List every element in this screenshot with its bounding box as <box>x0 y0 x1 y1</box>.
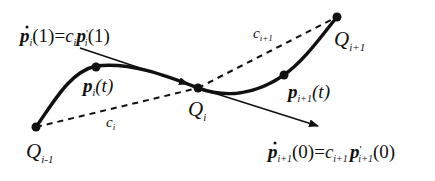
label-p-next: pi+1(t) <box>286 81 330 104</box>
label-c-i: ci <box>106 114 116 132</box>
curve-p-i <box>36 65 198 127</box>
label-q-prev: Qi-1 <box>26 139 53 165</box>
svg-text:pi(1)=cip'i(1): pi(1)=cip'i(1) <box>18 25 110 48</box>
point-q-next <box>333 13 342 22</box>
label-q-next: Qi+1 <box>334 27 365 53</box>
bezier-continuity-diagram: Qi-1 pi(t) Qi pi+1(t) Qi+1 ci ci+1 pi(1)… <box>0 0 435 181</box>
point-q-prev <box>32 123 41 132</box>
point-p-i <box>92 63 101 72</box>
svg-text:pi+1(0)=ci+1p'i+1(0): pi+1(0)=ci+1p'i+1(0) <box>266 141 395 164</box>
point-p-next <box>280 71 289 80</box>
equation-top: pi(1)=cip'i(1) <box>18 25 110 48</box>
point-q-i <box>194 84 203 93</box>
chord-c-i-plus-1 <box>198 17 337 88</box>
label-q-i: Qi <box>188 97 206 123</box>
label-p-i: pi(t) <box>81 75 113 98</box>
equation-bottom: pi+1(0)=ci+1p'i+1(0) <box>266 141 395 164</box>
label-c-next: ci+1 <box>253 25 273 43</box>
